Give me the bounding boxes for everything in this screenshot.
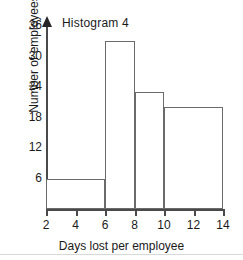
y-tick-label: 36 [16, 18, 42, 32]
x-tick-mark [194, 210, 196, 216]
y-axis-arrow-icon [42, 16, 52, 27]
histogram-bar [46, 179, 105, 210]
y-tick-label: 12 [16, 140, 42, 154]
x-tick-label: 6 [93, 218, 117, 232]
x-tick-label: 8 [123, 218, 147, 232]
histogram-figure: Histogram 4 Number of employees 61218243… [0, 0, 243, 260]
x-tick-label: 12 [182, 218, 206, 232]
histogram-bar [135, 92, 165, 209]
x-tick-label: 2 [34, 218, 58, 232]
y-tick-label: 18 [16, 110, 42, 124]
x-tick-mark [223, 210, 225, 216]
x-tick-mark [76, 210, 78, 216]
x-tick-label: 14 [211, 218, 235, 232]
x-tick-mark [135, 210, 137, 216]
histogram-bar [105, 41, 135, 209]
x-tick-mark [46, 210, 48, 216]
y-tick-label: 6 [16, 171, 42, 185]
x-tick-mark [105, 210, 107, 216]
footer-divider [0, 254, 243, 255]
x-axis-title: Days lost per employee [0, 239, 243, 253]
chart-title: Histogram 4 [62, 16, 129, 30]
x-tick-mark [164, 210, 166, 216]
y-tick-label: 24 [16, 79, 42, 93]
x-tick-label: 4 [64, 218, 88, 232]
y-tick-label: 30 [16, 49, 42, 63]
histogram-bar [164, 107, 223, 209]
x-tick-label: 10 [152, 218, 176, 232]
